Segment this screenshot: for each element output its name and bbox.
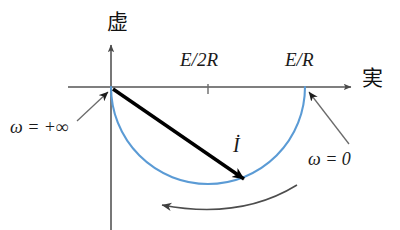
- real-axis-label: 実: [362, 68, 383, 89]
- imaginary-axis-label: 虚: [107, 12, 128, 33]
- tick-label-e-over-r: E/R: [285, 50, 314, 69]
- phasor-diagram-figure: 虚 実 E/2R E/R ω = +∞ ω = 0 İ: [0, 0, 400, 230]
- leader-line-omega-zero: [309, 92, 349, 144]
- phasor-arrow-i: [113, 89, 244, 179]
- diagram-canvas: [0, 0, 400, 230]
- annotation-omega-infinity: ω = +∞: [10, 118, 69, 136]
- tick-label-e-over-2r: E/2R: [180, 50, 218, 69]
- annotation-omega-zero: ω = 0: [308, 150, 351, 168]
- phasor-label-i: İ: [233, 135, 240, 155]
- leader-line-omega-infinity: [77, 92, 108, 121]
- current-locus-semicircle: [111, 87, 305, 184]
- direction-arc-arrow: [162, 185, 297, 210]
